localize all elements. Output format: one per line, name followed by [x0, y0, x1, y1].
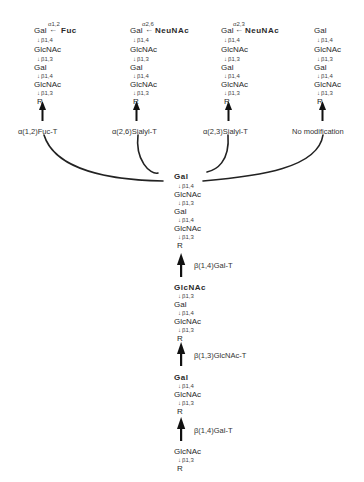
linkage-b14: ↓β1,4 [177, 183, 194, 189]
sugar-gal: Gal [174, 208, 186, 216]
sugar-glcnac: GlcNAc [221, 81, 248, 89]
arrow-up-central-3 [177, 417, 185, 441]
sugar-gal: Gal [314, 27, 326, 35]
linkage-b14: ↓β1,4 [36, 37, 53, 43]
sugar-glcnac: GlcNAc [174, 191, 201, 199]
sugar-gal-bold: Gal [174, 173, 188, 181]
sugar-gal: Gal [221, 27, 233, 35]
curve-to-a23 [207, 135, 228, 172]
enzyme-label-b13-glcnac-t: β(1,3)GlcNAc-T [194, 352, 246, 360]
linkage-b14: ↓β1,4 [132, 37, 149, 43]
linkage-b14: ↓β1,4 [132, 73, 149, 79]
sugar-glcnac: GlcNAc [314, 46, 341, 54]
arrow-up-central-1 [177, 253, 185, 277]
linkage-b13: ↓β1,3 [177, 327, 194, 333]
sugar-r: R [133, 98, 139, 106]
linkage-b13: ↓β1,3 [177, 234, 194, 240]
sugar-gal: Gal [130, 27, 142, 35]
linkage-b13: ↓β1,3 [132, 56, 149, 62]
linkage-b13: ↓β1,3 [223, 90, 240, 96]
curve-to-a26 [138, 135, 158, 173]
sugar-r: R [177, 408, 183, 416]
sugar-r: R [37, 98, 43, 106]
enzyme-label: No modification [292, 128, 344, 136]
linkage-b13: ↓β1,3 [316, 56, 333, 62]
sugar-r: R [177, 465, 183, 473]
sugar-glcnac-bold: GlcNAc [174, 284, 206, 292]
linkage-b13: ↓β1,3 [36, 56, 53, 62]
linkage-b14: ↓β1,4 [177, 383, 194, 389]
arrow-up-central-2 [177, 342, 185, 366]
left-arrow-icon: ← [235, 26, 243, 34]
sugar-glcnac: GlcNAc [34, 46, 61, 54]
enzyme-label: α(2,3)Sialyl-T [203, 128, 248, 136]
sugar-glcnac: GlcNAc [34, 81, 61, 89]
left-arrow-icon: ← [145, 26, 153, 34]
sugar-glcnac: GlcNAc [130, 46, 157, 54]
sugar-r: R [177, 242, 183, 250]
sugar-r: R [317, 98, 323, 106]
sugar-neunac: NeuNAc [245, 27, 279, 35]
enzyme-label-b14-gal-t: β(1,4)Gal-T [194, 262, 233, 270]
linkage-b14: ↓β1,4 [223, 37, 240, 43]
sugar-glcnac: GlcNAc [174, 448, 201, 456]
sugar-glcnac: GlcNAc [174, 318, 201, 326]
linkage-b13: ↓β1,3 [223, 56, 240, 62]
linkage-b13: ↓β1,3 [177, 457, 194, 463]
sugar-neunac: NeuNAc [155, 27, 189, 35]
sugar-gal: Gal [314, 64, 326, 72]
sugar-gal-bold: Gal [174, 374, 188, 382]
sugar-glcnac: GlcNAc [174, 225, 201, 233]
linkage-b13: ↓β1,3 [177, 200, 194, 206]
linkage-b13: ↓β1,3 [36, 90, 53, 96]
sugar-glcnac: GlcNAc [314, 81, 341, 89]
sugar-gal: Gal [130, 64, 142, 72]
linkage-b14: ↓β1,4 [177, 310, 194, 316]
enzyme-label: α(2,6)Sialyl-T [112, 128, 157, 136]
sugar-gal: Gal [174, 301, 186, 309]
linkage-b13: ↓β1,3 [316, 90, 333, 96]
linkage-b13: ↓β1,3 [132, 90, 149, 96]
enzyme-label: α(1,2)Fuc-T [18, 128, 57, 136]
sugar-glcnac: GlcNAc [221, 46, 248, 54]
sugar-glcnac: GlcNAc [174, 391, 201, 399]
sugar-fuc: Fuc [61, 27, 77, 35]
linkage-b14: ↓β1,4 [316, 73, 333, 79]
enzyme-label-b14-gal-t: β(1,4)Gal-T [194, 427, 233, 435]
sugar-r: R [177, 335, 183, 343]
linkage-b14: ↓β1,4 [223, 73, 240, 79]
sugar-gal: Gal [34, 27, 46, 35]
sugar-gal: Gal [34, 64, 46, 72]
sugar-glcnac: GlcNAc [130, 81, 157, 89]
curve-to-nomod [203, 135, 323, 181]
curve-to-fuc [44, 135, 163, 181]
left-arrow-icon: ← [49, 26, 57, 34]
linkage-b14: ↓β1,4 [316, 37, 333, 43]
sugar-gal: Gal [221, 64, 233, 72]
sugar-r: R [224, 98, 230, 106]
linkage-b14: ↓β1,4 [36, 73, 53, 79]
linkage-b13: ↓β1,3 [177, 400, 194, 406]
linkage-b14: ↓β1,4 [177, 217, 194, 223]
linkage-b13: ↓β1,3 [177, 293, 194, 299]
